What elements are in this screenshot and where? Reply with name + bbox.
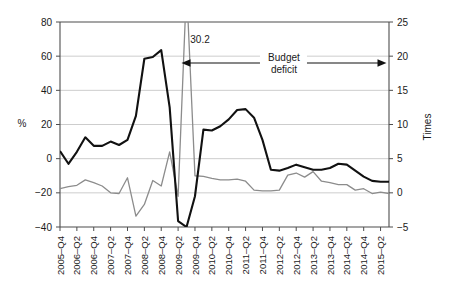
x-axis-tick-label: 2010–Q4 [223, 236, 234, 275]
left-axis-tick-label: 80 [41, 17, 53, 28]
x-axis-tick-label: 2014–Q2 [341, 236, 352, 275]
budget-deficit-annotation: Budget deficit [181, 52, 386, 76]
left-axis-title: % [18, 118, 27, 129]
black-series-line [60, 50, 389, 227]
right-axis-tick-label: 10 [397, 119, 409, 130]
x-axis-tick-label: 2007–Q2 [105, 236, 116, 275]
right-axis-tick-label: 20 [397, 51, 409, 62]
right-axis-tick-label: 0 [397, 187, 403, 198]
gray-series-line [60, 0, 389, 216]
left-axis-tick-label: 40 [41, 85, 53, 96]
x-axis-tick-label: 2011–Q2 [240, 236, 251, 274]
line-chart: 806040200−20−40 2520151050−5 2005–Q42006… [0, 0, 449, 292]
x-axis-tick-label: 2014–Q4 [358, 236, 369, 275]
right-axis-ticks [389, 22, 393, 227]
chart-container: 806040200−20−40 2520151050−5 2005–Q42006… [0, 0, 449, 292]
x-axis-tick-label: 2015–Q2 [375, 236, 386, 275]
x-axis-tick-labels: 2005–Q42006–Q22006–Q42007–Q22007–Q42008–… [55, 236, 387, 275]
right-axis-tick-label: 15 [397, 85, 409, 96]
x-axis-ticks [60, 227, 381, 231]
left-axis-tick-label: −20 [35, 187, 52, 198]
x-axis-tick-label: 2012–Q4 [291, 236, 302, 275]
x-axis-tick-label: 2006–Q4 [88, 236, 99, 275]
x-axis-tick-label: 2007–Q4 [122, 236, 133, 275]
peak-value-label: 30.2 [190, 34, 210, 45]
right-axis-title: Times [422, 114, 433, 141]
x-axis-tick-label: 2010–Q2 [206, 236, 217, 275]
x-axis-tick-label: 2011–Q4 [257, 236, 268, 274]
right-axis-tick-label: −5 [397, 222, 409, 233]
right-axis-tick-label: 25 [397, 17, 409, 28]
x-axis-tick-label: 2006–Q2 [71, 236, 82, 275]
x-axis-tick-label: 2013–Q2 [308, 236, 319, 275]
budget-deficit-label-line1: Budget [268, 52, 300, 63]
x-axis-tick-label: 2009–Q4 [190, 236, 201, 275]
budget-deficit-label-line2: deficit [271, 64, 297, 75]
x-axis-tick-label: 2012–Q2 [274, 236, 285, 275]
left-axis-tick-labels: 806040200−20−40 [35, 17, 52, 233]
left-axis-ticks [56, 22, 60, 227]
left-axis-tick-label: 0 [46, 153, 52, 164]
x-axis-tick-label: 2008–Q4 [156, 236, 167, 275]
right-axis-tick-labels: 2520151050−5 [397, 17, 409, 233]
left-axis-tick-label: −40 [35, 222, 52, 233]
x-axis-tick-label: 2008–Q2 [139, 236, 150, 275]
left-axis-tick-label: 20 [41, 119, 53, 130]
x-axis-tick-label: 2005–Q4 [55, 236, 66, 275]
x-axis-tick-label: 2013–Q4 [325, 236, 336, 275]
right-axis-tick-label: 5 [397, 153, 403, 164]
left-axis-tick-label: 60 [41, 51, 53, 62]
gridlines [60, 56, 389, 193]
x-axis-tick-label: 2009–Q2 [173, 236, 184, 275]
